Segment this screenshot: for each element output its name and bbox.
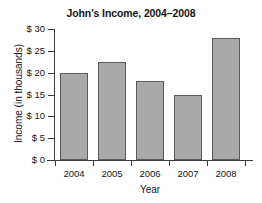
y-tick-mark xyxy=(48,29,55,30)
x-tick-mark xyxy=(55,161,56,166)
x-tick-mark xyxy=(207,161,208,166)
y-tick-mark xyxy=(48,73,55,74)
y-tick-mark xyxy=(48,138,55,139)
bar-2006 xyxy=(136,81,164,160)
y-tick-label: $ 15 xyxy=(0,89,45,100)
y-tick-label: $ 10 xyxy=(0,110,45,121)
x-tick-label-2005: 2005 xyxy=(93,168,131,179)
x-tick-mark xyxy=(93,161,94,166)
x-axis-line xyxy=(47,160,253,161)
x-tick-mark xyxy=(169,161,170,166)
x-axis-title: Year xyxy=(47,184,253,195)
x-tick-mark xyxy=(131,161,132,166)
x-tick-label-2004: 2004 xyxy=(55,168,93,179)
x-tick-label-2007: 2007 xyxy=(169,168,207,179)
bar-chart-figure: John's Income, 2004–2008 Income (in thou… xyxy=(0,0,262,203)
y-tick-mark xyxy=(48,51,55,52)
y-tick-label: $ 30 xyxy=(0,23,45,34)
y-tick-mark xyxy=(48,116,55,117)
x-tick-label-2006: 2006 xyxy=(131,168,169,179)
x-tick-label-2008: 2008 xyxy=(207,168,245,179)
y-tick-label: $ 5 xyxy=(0,132,45,143)
bar-2004 xyxy=(60,73,88,160)
y-tick-label: $ 20 xyxy=(0,67,45,78)
bar-2007 xyxy=(174,95,202,161)
y-tick-mark xyxy=(48,160,55,161)
y-tick-label: $ 25 xyxy=(0,45,45,56)
chart-title: John's Income, 2004–2008 xyxy=(0,7,262,19)
x-tick-mark xyxy=(245,161,246,166)
bar-2005 xyxy=(98,62,126,160)
y-tick-mark xyxy=(48,95,55,96)
bar-2008 xyxy=(212,38,240,160)
y-tick-label: $ 0 xyxy=(0,154,45,165)
